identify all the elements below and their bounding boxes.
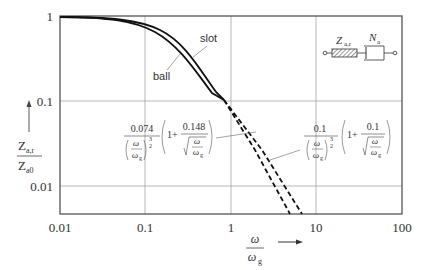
svg-text:ω: ω: [132, 150, 138, 160]
svg-text:0.1: 0.1: [367, 121, 380, 132]
ball-asymptote: [224, 100, 290, 214]
svg-text:ω: ω: [372, 136, 378, 146]
y-tick-1: 1: [47, 9, 54, 24]
svg-text:1+: 1+: [347, 129, 358, 140]
svg-text:ω: ω: [313, 150, 319, 160]
svg-text:2: 2: [330, 143, 333, 149]
y-axis-label: Z a,r Z a0: [17, 100, 42, 175]
x-tick-0.01: 0.01: [49, 220, 72, 235]
svg-text:0.074: 0.074: [131, 123, 154, 134]
svg-text:ω: ω: [248, 250, 256, 264]
svg-text:ω: ω: [133, 138, 139, 148]
svg-text:ω: ω: [371, 147, 377, 157]
svg-text:2: 2: [149, 143, 152, 149]
svg-text:g: g: [258, 257, 262, 266]
arrow-right-icon: [296, 240, 303, 245]
x-tick-0.1: 0.1: [137, 220, 153, 235]
y-tick-0.1: 0.1: [37, 94, 53, 109]
svg-text:a: a: [377, 38, 381, 46]
svg-text:3: 3: [149, 136, 152, 142]
x-tick-10: 10: [310, 220, 323, 235]
svg-text:1+: 1+: [167, 129, 178, 140]
svg-text:a,r: a,r: [344, 40, 352, 48]
svg-text:ω: ω: [314, 138, 320, 148]
svg-text:Z: Z: [336, 34, 343, 46]
svg-text:3: 3: [330, 136, 333, 142]
inset-circuit: Z a,r N a: [323, 31, 397, 60]
x-axis-label: ω ω g: [246, 232, 303, 266]
arrow-up-icon: [27, 100, 32, 107]
x-tick-1: 1: [228, 220, 235, 235]
svg-text:g: g: [378, 152, 381, 158]
y-tick-0.01: 0.01: [30, 179, 53, 194]
svg-text:g: g: [320, 155, 323, 161]
svg-text:Z: Z: [18, 138, 26, 153]
slot-asymptote: [224, 100, 302, 214]
svg-text:ω: ω: [193, 147, 199, 157]
mass-icon: [364, 46, 384, 60]
svg-text:ω: ω: [194, 136, 200, 146]
ball-label: ball: [153, 70, 170, 82]
series-slot: [60, 17, 302, 214]
svg-text:Z: Z: [18, 158, 26, 173]
chart: 0.01 0.1 1 10 100 1 0.1 0.01 Z a,r Z a0 …: [0, 0, 428, 270]
resistor-icon: [332, 49, 357, 57]
svg-text:N: N: [368, 31, 377, 43]
svg-text:0.1: 0.1: [314, 123, 327, 134]
formula-ball: 0.074 ω ω g 3 2 1+ 0.148 ω ω g: [124, 120, 256, 161]
svg-text:a0: a0: [26, 166, 34, 175]
svg-text:a,r: a,r: [26, 146, 35, 155]
svg-text:0.148: 0.148: [183, 121, 206, 132]
formula-slot: 0.1 ω ω g 3 2 1+ 0.1 ω ω g: [270, 120, 390, 161]
x-tick-100: 100: [392, 220, 412, 235]
series-ball: [60, 17, 290, 214]
slot-label: slot: [200, 32, 217, 44]
svg-text:g: g: [200, 152, 203, 158]
svg-text:g: g: [139, 155, 142, 161]
svg-text:ω: ω: [251, 232, 259, 246]
